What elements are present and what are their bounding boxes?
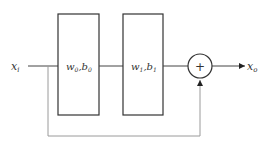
plus-icon: + <box>195 60 205 74</box>
output-label: xo <box>247 60 257 74</box>
input-label: xi <box>11 60 19 74</box>
block-1-label: w1,b1 <box>131 61 157 73</box>
residual-diagram: xi w0,b0 w1,b1 + xo <box>0 0 267 156</box>
